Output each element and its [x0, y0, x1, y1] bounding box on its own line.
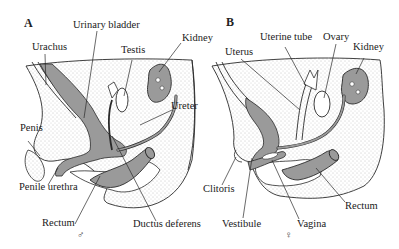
label-urinary-bladder: Urinary bladder [73, 20, 140, 31]
male-symbol: ♂ [77, 230, 85, 240]
panel-label-a: A [24, 17, 33, 29]
female-symbol: ♀ [285, 230, 293, 240]
label-uterus: Uterus [225, 47, 253, 58]
label-urachus: Urachus [32, 42, 67, 53]
label-kidney-a: Kidney [182, 33, 213, 44]
panel-label-b: B [226, 16, 234, 28]
label-clitoris: Clitoris [203, 184, 235, 195]
label-ductus-deferens: Ductus deferens [133, 219, 201, 230]
label-ureter: Ureter [171, 101, 198, 112]
label-kidney-b: Kidney [353, 42, 384, 53]
label-vagina: Vagina [297, 219, 326, 230]
panel-a-artwork [25, 31, 195, 224]
label-uterine-tube: Uterine tube [260, 32, 312, 43]
label-penis: Penis [20, 123, 43, 134]
label-penile-urethra: Penile urethra [19, 182, 78, 193]
label-ovary: Ovary [323, 32, 349, 43]
panel-b-artwork [212, 44, 384, 219]
label-rectum-b: Rectum [345, 201, 378, 212]
anatomy-figure: A Urinary bladder Urachus Testis Kidney … [0, 0, 399, 249]
label-rectum-a: Rectum [42, 218, 75, 229]
label-vestibule: Vestibule [222, 219, 261, 230]
label-testis: Testis [121, 45, 145, 56]
